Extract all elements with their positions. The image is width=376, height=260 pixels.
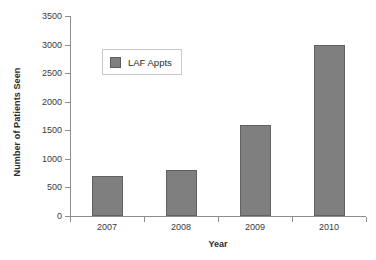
x-tick-mark: [292, 217, 293, 222]
legend-swatch-laf-appts: [110, 57, 121, 68]
y-tick-label: 3000: [28, 40, 62, 49]
legend-label-laf-appts: LAF Appts: [128, 57, 172, 68]
x-tick-mark: [218, 217, 219, 222]
bar-2008: [166, 170, 197, 216]
y-tick-label: 3500: [28, 12, 62, 21]
bar-2010: [314, 45, 345, 216]
y-axis-tick-labels: 0500100015002000250030003500: [28, 0, 62, 260]
y-tick-label: 2500: [28, 69, 62, 78]
bar-chart-figure: Number of Patients Seen 0500100015002000…: [0, 0, 376, 260]
y-tick-mark: [65, 102, 70, 103]
x-tick-mark: [144, 217, 145, 222]
y-tick-mark: [65, 73, 70, 74]
y-tick-mark: [65, 130, 70, 131]
y-tick-label: 0: [28, 212, 62, 221]
x-axis-title: Year: [70, 239, 366, 249]
legend: LAF Appts: [102, 49, 182, 75]
y-tick-label: 1500: [28, 126, 62, 135]
x-tick-mark: [366, 217, 367, 222]
bar-2007: [92, 176, 123, 216]
y-tick-mark: [65, 159, 70, 160]
y-tick-label: 1000: [28, 154, 62, 163]
y-tick-mark: [65, 16, 70, 17]
y-axis-line: [70, 16, 71, 216]
y-tick-label: 2000: [28, 97, 62, 106]
x-tick-label: 2007: [97, 222, 117, 232]
bar-2009: [240, 125, 271, 216]
x-tick-label: 2008: [171, 222, 191, 232]
y-tick-mark: [65, 45, 70, 46]
x-tick-mark: [70, 217, 71, 222]
y-axis-title-text: Number of Patients Seen: [12, 68, 22, 177]
x-tick-label: 2009: [245, 222, 265, 232]
x-tick-label: 2010: [319, 222, 339, 232]
y-tick-mark: [65, 187, 70, 188]
y-axis-title: Number of Patients Seen: [8, 42, 26, 202]
y-tick-label: 500: [28, 183, 62, 192]
